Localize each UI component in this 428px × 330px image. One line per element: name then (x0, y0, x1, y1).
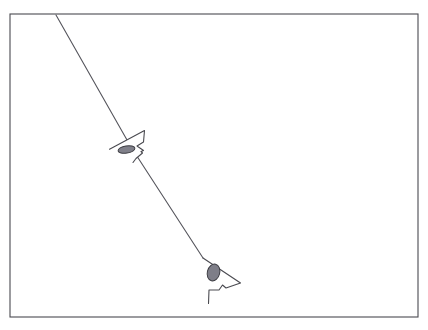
diagram-canvas (0, 0, 428, 330)
diagram-svg (0, 0, 428, 330)
